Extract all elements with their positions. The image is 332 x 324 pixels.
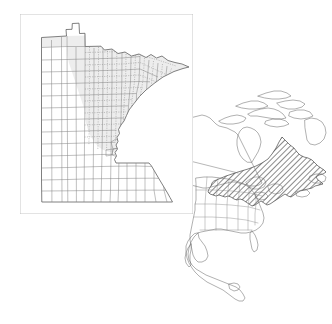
- map-figure: [0, 0, 332, 324]
- minnesota-inset-panel: [20, 14, 193, 214]
- figure-root: [0, 0, 332, 324]
